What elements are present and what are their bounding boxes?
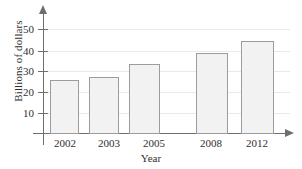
- y-tick-mark-50: [38, 29, 48, 30]
- y-tick-mark-40: [38, 51, 48, 52]
- x-axis-title: Year: [0, 152, 302, 164]
- y-tick-label-20: 20: [8, 87, 34, 98]
- bar-2012: [241, 41, 274, 134]
- y-axis-arrow-icon: [39, 5, 47, 14]
- y-tick-label-30: 30: [8, 66, 34, 77]
- x-axis-arrow-icon: [285, 129, 294, 137]
- bar-2003: [89, 77, 119, 134]
- bar-2002: [50, 80, 79, 134]
- bar-chart-figure: Billions of dollars 50 40 30 20 10 2002 …: [0, 0, 302, 169]
- x-tick-label-2012: 2012: [236, 137, 278, 149]
- bar-2008: [196, 53, 228, 134]
- x-tick-label-2002: 2002: [44, 137, 86, 149]
- y-tick-mark-30: [38, 71, 48, 72]
- x-tick-label-2003: 2003: [88, 137, 130, 149]
- x-tick-label-2008: 2008: [190, 137, 232, 149]
- y-axis-line: [43, 12, 44, 145]
- y-tick-label-40: 40: [8, 46, 34, 57]
- y-tick-mark-10: [38, 113, 48, 114]
- y-tick-label-10: 10: [8, 108, 34, 119]
- gridline-50: [48, 29, 290, 30]
- bar-2005: [129, 64, 160, 134]
- y-tick-mark-20: [38, 92, 48, 93]
- y-tick-label-50: 50: [8, 24, 34, 35]
- x-tick-label-2005: 2005: [133, 137, 175, 149]
